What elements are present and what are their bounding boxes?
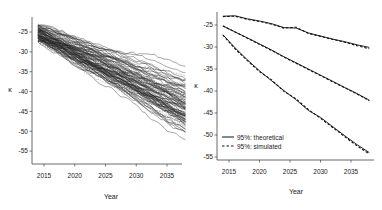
quantile-line	[223, 16, 369, 48]
x-tick-label: 2025	[98, 172, 113, 179]
x-tick-label: 2020	[68, 172, 83, 179]
left-x-ticks: 20152020202520302035	[37, 164, 175, 179]
x-tick-label: 2015	[222, 168, 237, 175]
y-tick-label: -45	[204, 109, 214, 116]
right-x-label: Year	[289, 188, 304, 195]
x-tick-label: 2035	[344, 168, 359, 175]
right-panel: -25-30-35-40-45-50-55 201520202025203020…	[194, 12, 374, 195]
legend: 95%: theoretical 95%: simulated	[222, 134, 284, 150]
y-tick-label: -35	[204, 65, 214, 72]
left-x-label: Year	[104, 193, 119, 200]
right-y-label: κ	[194, 82, 198, 89]
y-tick-label: -45	[19, 108, 29, 115]
x-tick-label: 2035	[160, 172, 175, 179]
y-tick-label: -40	[19, 88, 29, 95]
y-tick-label: -50	[19, 128, 29, 135]
figure: -25-30-35-40-45-50-55 201520202025203020…	[0, 0, 382, 210]
x-tick-label: 2030	[129, 172, 144, 179]
legend-simulated: 95%: simulated	[237, 143, 282, 150]
y-tick-label: -50	[204, 131, 214, 138]
x-tick-label: 2020	[252, 168, 267, 175]
left-y-label: κ	[8, 86, 12, 93]
right-x-ticks: 20152020202520302035	[222, 160, 359, 175]
y-tick-label: -40	[204, 87, 214, 94]
y-tick-label: -55	[19, 147, 29, 154]
x-tick-label: 2025	[283, 168, 298, 175]
left-panel: -25-30-35-40-45-50-55 201520202025203020…	[8, 17, 185, 200]
y-tick-label: -25	[19, 28, 29, 35]
y-tick-label: -35	[19, 68, 29, 75]
trajectory-line	[38, 39, 186, 126]
x-tick-label: 2030	[313, 168, 328, 175]
simulated-trajectories	[38, 24, 186, 140]
right-y-ticks: -25-30-35-40-45-50-55	[204, 21, 217, 160]
y-tick-label: -55	[204, 153, 214, 160]
legend-theoretical: 95%: theoretical	[237, 134, 284, 141]
quantile-line	[223, 16, 369, 49]
x-tick-label: 2015	[37, 172, 52, 179]
y-tick-label: -30	[19, 48, 29, 55]
y-tick-label: -30	[204, 43, 214, 50]
left-y-ticks: -25-30-35-40-45-50-55	[19, 28, 32, 154]
trajectory-line	[38, 26, 186, 97]
y-tick-label: -25	[204, 21, 214, 28]
